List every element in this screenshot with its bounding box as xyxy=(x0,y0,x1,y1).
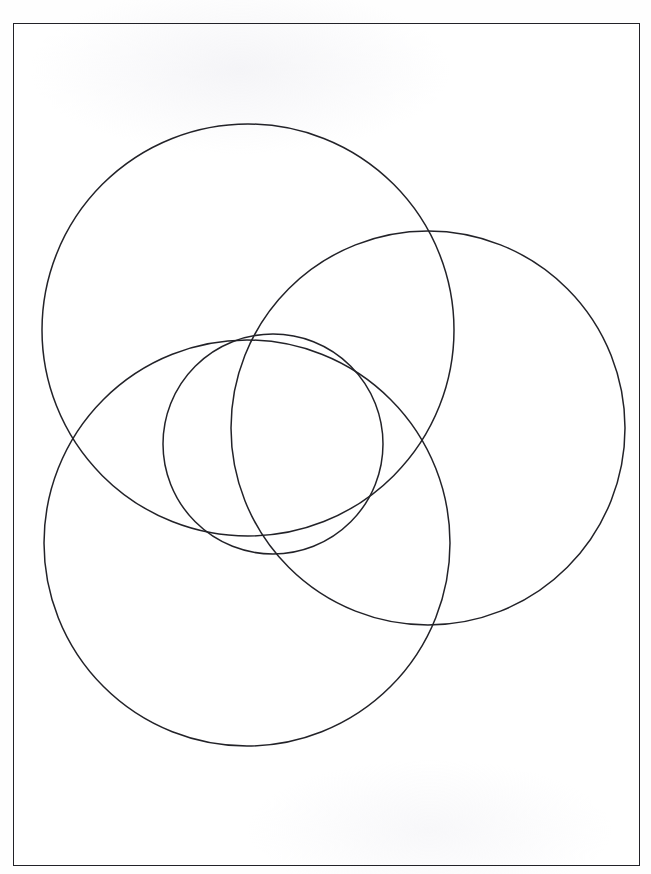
circle-center-small xyxy=(163,334,383,554)
circle-right xyxy=(231,231,625,625)
circle-bottom-left xyxy=(44,340,450,746)
circle-top-left xyxy=(42,124,454,536)
overlapping-circles-diagram xyxy=(0,0,651,874)
document-root xyxy=(0,0,651,874)
circles-group xyxy=(42,124,625,746)
